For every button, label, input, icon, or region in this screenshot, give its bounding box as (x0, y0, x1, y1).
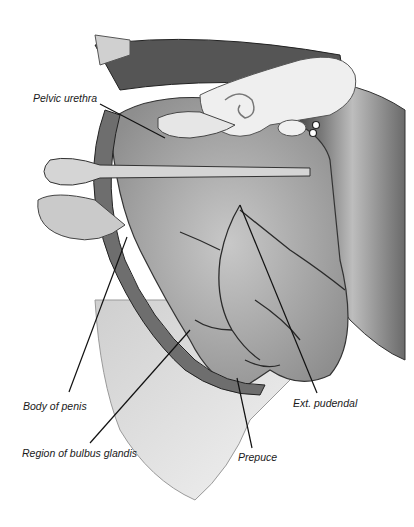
label-pelvic-urethra: Pelvic urethra (33, 92, 97, 104)
label-prepuce: Prepuce (238, 451, 277, 463)
label-region-of-bulbus-glandis: Region of bulbus glandis (22, 447, 137, 459)
label-body-of-penis: Body of penis (23, 400, 87, 412)
label-ext-pudendal: Ext. pudendal (293, 397, 357, 409)
